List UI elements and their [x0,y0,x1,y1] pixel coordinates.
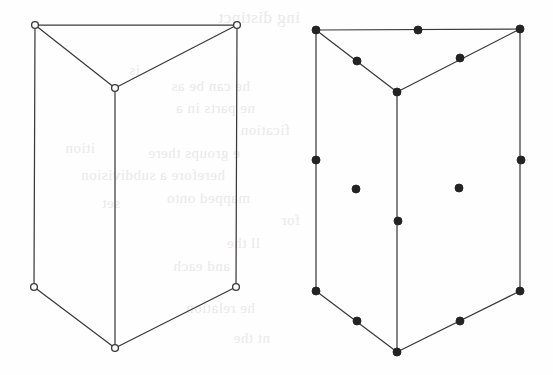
marker-face-center [455,184,463,192]
marker-edge-midpoint [394,217,402,225]
marker-edge-midpoint [353,317,361,325]
marker-edge-midpoint [517,156,525,164]
marker-vertex [393,88,401,96]
marker-edge-midpoint [353,57,361,65]
marker-vertex [31,284,38,291]
figure-page: ing distincthe can be asne parts in afic… [0,0,553,375]
marker-face-center [352,185,360,193]
marker-vertex [516,25,524,33]
prism-edge [236,25,237,287]
prism-diagram [0,0,553,375]
prism-edge [115,287,236,348]
prism-edges [34,25,237,348]
triangular-prism-hollow-vertices [31,22,241,352]
marker-vertex [312,287,320,295]
marker-vertex [393,348,401,356]
prism-edge [34,287,115,348]
prism-edges [316,29,520,352]
marker-vertex [112,345,119,352]
prism-edge [34,25,35,287]
prism-markers [312,25,525,356]
prism-edge [115,25,237,88]
marker-vertex [32,22,39,29]
marker-vertex [312,26,320,34]
marker-vertex [234,22,241,29]
marker-vertex [516,287,524,295]
marker-edge-midpoint [456,54,464,62]
prism-markers [31,22,241,352]
prism-edge [35,25,115,88]
marker-edge-midpoint [414,26,422,34]
marker-edge-midpoint [456,317,464,325]
marker-edge-midpoint [312,156,320,164]
triangular-prism-filled-dots [312,25,525,356]
marker-vertex [233,284,240,291]
marker-vertex [112,85,119,92]
